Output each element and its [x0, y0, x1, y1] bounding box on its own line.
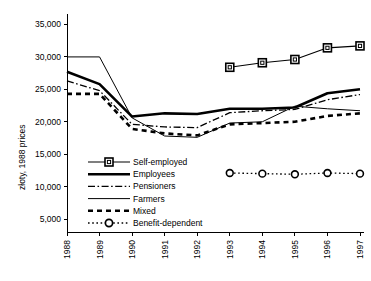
y-tick-label: 35,000: [35, 19, 61, 29]
x-tick-label: 1989: [95, 240, 105, 259]
series-benefit-dependent: [226, 170, 363, 178]
x-tick-label: 1993: [225, 240, 235, 259]
series-mixed: [67, 94, 360, 136]
y-tick-label: 15,000: [35, 149, 61, 159]
y-tick-label: 5,000: [40, 214, 62, 224]
legend-label: Employees: [133, 169, 175, 179]
y-axis: 5,00010,00015,00020,00025,00030,00035,00…: [35, 14, 67, 232]
chart-container: 5,00010,00015,00020,00025,00030,00035,00…: [0, 0, 371, 281]
x-axis: 1988198919901991199219931994199519961997: [62, 232, 365, 259]
legend-label: Self-employed: [133, 157, 188, 167]
legend-label: Mixed: [133, 206, 156, 216]
y-axis-title: złoty, 1988 prices: [17, 124, 27, 190]
legend-item[interactable]: Farmers: [88, 194, 165, 204]
x-tick-label: 1994: [257, 240, 267, 259]
legend-item[interactable]: Self-employed: [88, 157, 188, 167]
legend-label: Benefit-dependent: [133, 218, 203, 228]
y-tick-label: 10,000: [35, 182, 61, 192]
series-self-employed: [226, 42, 364, 71]
legend-item[interactable]: Pensioners: [88, 181, 176, 191]
legend-item[interactable]: Mixed: [88, 206, 156, 216]
legend-item[interactable]: Employees: [88, 169, 175, 179]
x-tick-label: 1991: [160, 240, 170, 259]
line-chart: 5,00010,00015,00020,00025,00030,00035,00…: [0, 0, 371, 281]
chart-legend: Self-employedEmployeesPensionersFarmersM…: [88, 157, 203, 228]
y-tick-label: 30,000: [35, 52, 61, 62]
y-tick-label: 25,000: [35, 84, 61, 94]
x-tick-label: 1992: [192, 240, 202, 259]
x-tick-label: 1988: [62, 240, 72, 259]
legend-item[interactable]: Benefit-dependent: [88, 218, 203, 228]
x-tick-label: 1995: [290, 240, 300, 259]
legend-label: Pensioners: [133, 181, 176, 191]
y-tick-label: 20,000: [35, 117, 61, 127]
x-tick-label: 1997: [355, 240, 365, 259]
x-tick-label: 1996: [322, 240, 332, 259]
legend-label: Farmers: [133, 194, 165, 204]
x-tick-label: 1990: [127, 240, 137, 259]
